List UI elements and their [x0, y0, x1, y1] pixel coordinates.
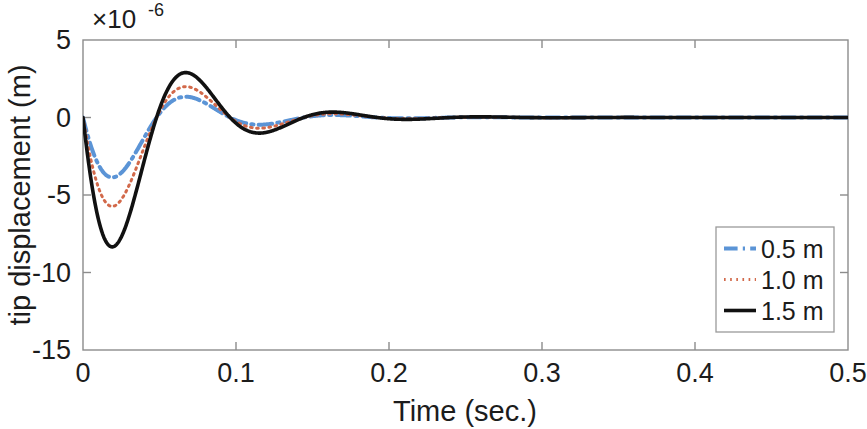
- y-exponent-base: ×10: [92, 4, 136, 34]
- legend-label: 1.0 m: [761, 266, 824, 294]
- y-tick-label: -10: [32, 258, 71, 288]
- x-axis-title: Time (sec.): [393, 395, 537, 427]
- x-tick-label: 0: [75, 358, 90, 388]
- chart-canvas: ×10 -6 00.10.20.30.40.5 50-5-10-15 Time …: [0, 0, 867, 429]
- chart-figure: ×10 -6 00.10.20.30.40.5 50-5-10-15 Time …: [0, 0, 867, 429]
- y-tick-label: -5: [47, 180, 71, 210]
- y-axis-tick-labels: 50-5-10-15: [32, 25, 71, 365]
- x-axis-tick-labels: 00.10.20.30.40.5: [75, 358, 866, 388]
- x-tick-label: 0.5: [829, 358, 867, 388]
- y-axis-title: tip displacement (m): [4, 64, 36, 325]
- x-axis-ticks: [236, 40, 695, 350]
- x-tick-label: 0.3: [523, 358, 561, 388]
- y-exponent-power: -6: [148, 0, 164, 20]
- y-tick-label: 5: [56, 25, 71, 55]
- series-line-0-5-m: [83, 97, 848, 178]
- data-series-group: [83, 73, 848, 247]
- y-exponent-annotation: ×10 -6: [92, 0, 164, 34]
- x-tick-label: 0.4: [676, 358, 714, 388]
- x-tick-label: 0.2: [370, 358, 408, 388]
- series-line-1-0-m: [83, 87, 848, 207]
- legend-label: 0.5 m: [761, 235, 824, 263]
- y-tick-label: 0: [56, 103, 71, 133]
- x-tick-label: 0.1: [217, 358, 255, 388]
- legend-label: 1.5 m: [761, 297, 824, 325]
- chart-legend: 0.5 m1.0 m1.5 m: [716, 227, 834, 332]
- y-tick-label: -15: [32, 335, 71, 365]
